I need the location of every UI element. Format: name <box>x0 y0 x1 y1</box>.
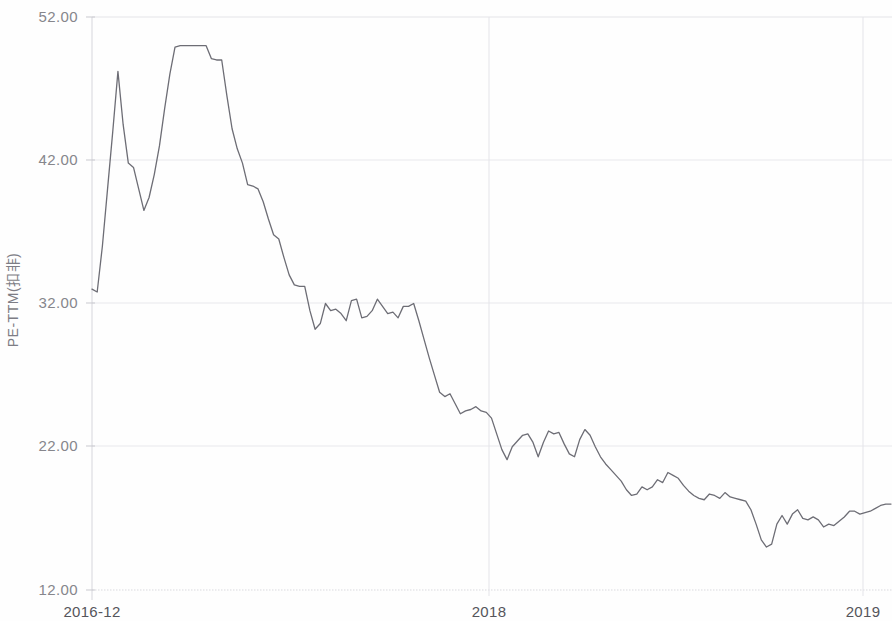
pe-ttm-series-line <box>92 46 891 547</box>
y-tick-label-22: 22.00 <box>38 437 78 454</box>
y-tick-label-52: 52.00 <box>38 8 78 25</box>
y-tick-marks <box>86 17 95 590</box>
x-tick-label-2019: 2019 <box>846 603 881 620</box>
x-tick-label-2018: 2018 <box>472 603 507 620</box>
horizontal-gridlines <box>92 17 892 590</box>
y-tick-label-32: 32.00 <box>38 294 78 311</box>
vertical-gridlines <box>92 17 863 600</box>
chart-canvas: 52.00 42.00 32.00 22.00 12.00 PE-TTM(扣非)… <box>0 0 892 621</box>
x-tick-label-2016-12: 2016-12 <box>63 603 120 620</box>
y-tick-label-12: 12.00 <box>38 581 78 598</box>
y-axis-title: PE-TTM(扣非) <box>5 253 21 347</box>
pe-ttm-line-chart: 52.00 42.00 32.00 22.00 12.00 PE-TTM(扣非)… <box>0 0 892 621</box>
y-tick-label-42: 42.00 <box>38 151 78 168</box>
